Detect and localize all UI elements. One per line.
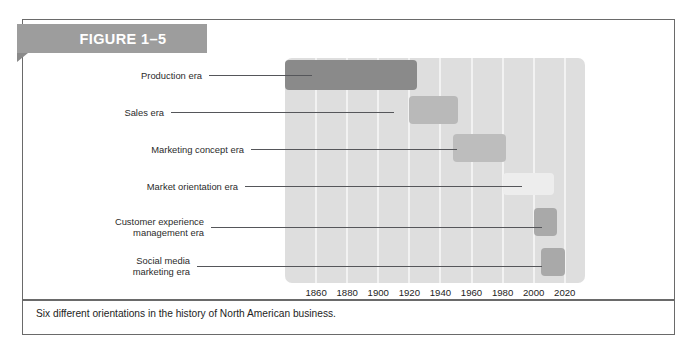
ribbon-fold-shape [17,53,28,62]
x-tick-1920: 1920 [399,287,420,298]
era-label-production-era: Production era [32,70,202,81]
x-tick-1960: 1960 [461,287,482,298]
x-tick-1860: 1860 [305,287,326,298]
x-tick-1940: 1940 [430,287,451,298]
leader-line-sales-era [171,112,394,113]
bar-marketing-concept-era [453,134,506,162]
era-label-marketing-concept-era: Marketing concept era [74,144,244,155]
bar-customer-experience-management-era [534,208,557,236]
x-tick-2000: 2000 [523,287,544,298]
x-axis-tick-labels: 186018801900192019401960198020002020 [285,287,595,303]
chart-area: Production eraSales eraMarketing concept… [22,19,675,335]
era-label-sales-era: Sales era [0,107,164,118]
era-label-social-media-marketing-era: Social media marketing era [20,255,190,277]
x-tick-2020: 2020 [554,287,575,298]
leader-line-social-media-marketing-era [197,266,542,267]
caption-divider [22,299,675,301]
leader-line-production-era [209,75,312,76]
leader-line-marketing-concept-era [251,149,457,150]
era-label-customer-experience-management-era: Customer experience management era [34,216,204,238]
figure-caption: Six different orientations in the histor… [36,308,336,319]
bar-social-media-marketing-era [541,248,564,276]
leader-line-market-orientation-era [245,186,522,187]
leader-line-customer-experience-management-era [211,227,542,228]
figure-number-ribbon: FIGURE 1–5 [17,24,207,53]
x-tick-1980: 1980 [492,287,513,298]
x-tick-1880: 1880 [337,287,358,298]
figure-number-label: FIGURE 1–5 [17,24,207,53]
era-label-market-orientation-era: Market orientation era [68,181,238,192]
bar-market-orientation-era [503,173,554,195]
x-tick-1900: 1900 [368,287,389,298]
bar-sales-era [409,96,457,124]
bars-layer [285,58,585,283]
